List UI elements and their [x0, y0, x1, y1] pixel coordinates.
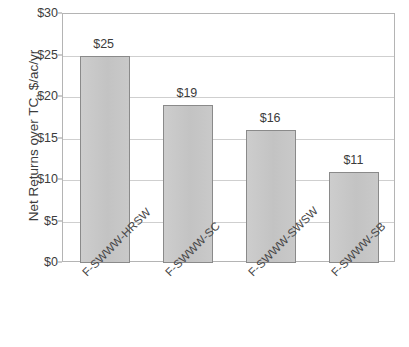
y-tick-label: $25 [12, 48, 58, 62]
page-footer-remnant [0, 341, 409, 347]
y-tick-label: $0 [12, 255, 58, 269]
y-tick-label: $5 [12, 214, 58, 228]
y-tick-label: $10 [12, 172, 58, 186]
y-tick-label: $30 [12, 6, 58, 20]
y-tick-label: $15 [12, 131, 58, 145]
bar-value-label: $25 [93, 37, 114, 51]
bar-value-label: $19 [176, 86, 197, 100]
bar-value-label: $11 [343, 153, 363, 167]
bar-value-label: $16 [260, 111, 281, 125]
y-tick-label: $20 [12, 89, 58, 103]
bar-chart: Net Returns over TC, $/ac/yr $0$5$10$15$… [0, 0, 409, 347]
